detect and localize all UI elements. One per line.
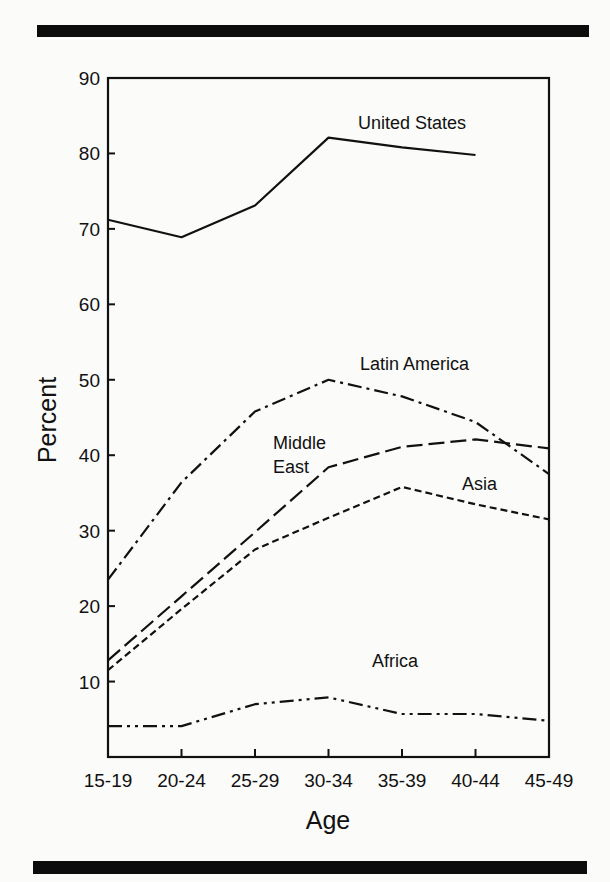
plot-border [108,78,549,757]
bottom-rule [33,861,587,874]
y-axis-ticks: 102030405060708090 [79,68,115,693]
y-tick-label: 70 [79,219,100,240]
y-tick-label: 40 [79,445,100,466]
series-label-middle-east: East [273,457,309,477]
y-tick-label: 80 [79,143,100,164]
series-label-africa: Africa [372,651,419,671]
series-label-asia: Asia [462,474,498,494]
line-chart: 102030405060708090 15-1920-2425-2930-343… [0,0,610,882]
series-line-asia [108,487,549,670]
x-tick-label: 40-44 [451,770,500,791]
x-axis-ticks: 15-1920-2425-2930-3435-3940-4445-49 [84,749,574,791]
series-line-united-states [108,138,476,238]
series-label-latin-america: Latin America [360,354,470,374]
x-tick-label: 30-34 [304,770,353,791]
series-lines [108,138,549,727]
x-tick-label: 45-49 [525,770,574,791]
plot-frame [108,78,549,757]
series-line-africa [108,697,549,726]
series-line-middle-east [108,439,549,660]
y-tick-label: 30 [79,521,100,542]
y-tick-label: 60 [79,294,100,315]
x-axis-title: Age [306,806,350,834]
y-tick-label: 90 [79,68,100,89]
x-tick-label: 15-19 [84,770,133,791]
y-tick-label: 10 [79,672,100,693]
series-label-united-states: United States [358,113,466,133]
series-label-middle-east: Middle [273,433,326,453]
x-tick-label: 20-24 [157,770,206,791]
y-axis-title: Percent [33,377,61,463]
x-tick-label: 25-29 [231,770,280,791]
y-tick-label: 50 [79,370,100,391]
x-tick-label: 35-39 [378,770,427,791]
y-tick-label: 20 [79,596,100,617]
